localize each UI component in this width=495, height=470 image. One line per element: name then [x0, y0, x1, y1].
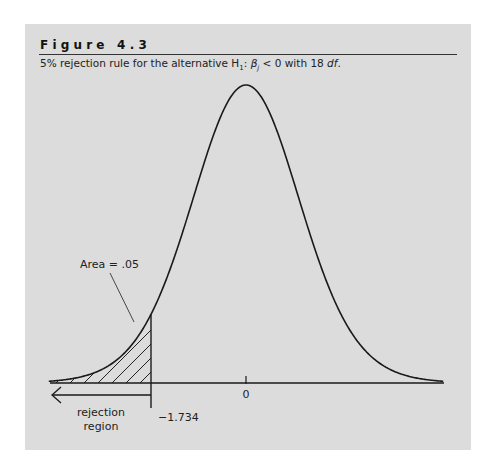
area-label: Area = .05 — [80, 258, 139, 271]
zero-label: 0 — [243, 388, 250, 401]
t-distribution-chart: Area = .05 0 −1.734 rejection region — [0, 0, 495, 470]
rejection-arrow — [52, 387, 151, 403]
critical-value-label: −1.734 — [158, 411, 199, 424]
area-leader-line — [110, 273, 134, 322]
rejection-label-line1: rejection — [77, 406, 125, 419]
rejection-hatching — [0, 295, 396, 385]
density-curve — [49, 85, 443, 381]
rejection-label-line2: region — [84, 420, 119, 433]
